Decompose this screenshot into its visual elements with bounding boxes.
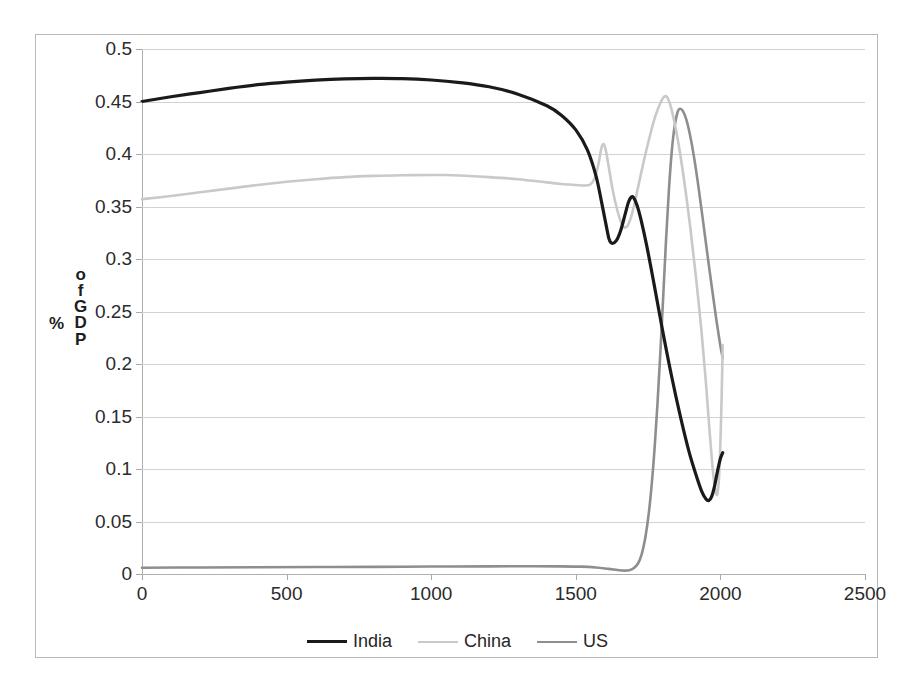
legend-label-china: China — [464, 631, 511, 652]
y-tick-mark-0.45 — [136, 102, 142, 103]
gridline-y-0 — [142, 574, 865, 575]
x-tick-label-2500: 2500 — [844, 583, 886, 605]
y-axis-tick-labels: 00.050.10.150.20.250.30.350.40.450.5 — [36, 35, 132, 657]
y-tick-mark-0.15 — [136, 417, 142, 418]
x-tick-label-0: 0 — [137, 583, 148, 605]
y-tick-label-0: 0 — [121, 564, 132, 583]
y-tick-mark-0.05 — [136, 522, 142, 523]
legend-swatch-india — [307, 640, 347, 643]
y-tick-mark-0.4 — [136, 154, 142, 155]
y-tick-label-0.3: 0.3 — [106, 249, 132, 268]
x-tick-label-1000: 1000 — [410, 583, 452, 605]
y-tick-mark-0.35 — [136, 207, 142, 208]
plot-area — [142, 49, 865, 574]
series-lines — [142, 49, 865, 574]
y-tick-mark-0.5 — [136, 49, 142, 50]
y-tick-label-0.5: 0.5 — [106, 39, 132, 58]
chart-frame: % o f G D P 00.050.10.150.20.250.30.350.… — [35, 34, 878, 658]
y-tick-label-0.4: 0.4 — [106, 144, 132, 163]
y-tick-label-0.25: 0.25 — [95, 302, 132, 321]
legend-item-us[interactable]: US — [537, 631, 608, 652]
series-line-us — [142, 109, 723, 571]
x-tick-label-500: 500 — [271, 583, 303, 605]
x-tick-mark-2500 — [865, 574, 866, 580]
legend-label-india: India — [353, 631, 392, 652]
legend-label-us: US — [583, 631, 608, 652]
x-tick-label-2000: 2000 — [699, 583, 741, 605]
series-line-india — [142, 78, 723, 500]
y-tick-mark-0.25 — [136, 312, 142, 313]
series-line-china — [142, 96, 723, 495]
y-tick-label-0.15: 0.15 — [95, 407, 132, 426]
y-tick-label-0.35: 0.35 — [95, 197, 132, 216]
legend-item-china[interactable]: China — [418, 631, 511, 652]
y-tick-mark-0 — [136, 574, 142, 575]
y-tick-label-0.2: 0.2 — [106, 354, 132, 373]
chart-legend: IndiaChinaUS — [36, 631, 879, 652]
y-tick-mark-0.3 — [136, 259, 142, 260]
legend-swatch-us — [537, 641, 577, 643]
y-tick-mark-0.2 — [136, 364, 142, 365]
y-tick-label-0.45: 0.45 — [95, 92, 132, 111]
legend-item-india[interactable]: India — [307, 631, 392, 652]
y-tick-label-0.05: 0.05 — [95, 512, 132, 531]
y-tick-label-0.1: 0.1 — [106, 459, 132, 478]
y-tick-mark-0.1 — [136, 469, 142, 470]
x-tick-label-1500: 1500 — [555, 583, 597, 605]
legend-swatch-china — [418, 641, 458, 643]
